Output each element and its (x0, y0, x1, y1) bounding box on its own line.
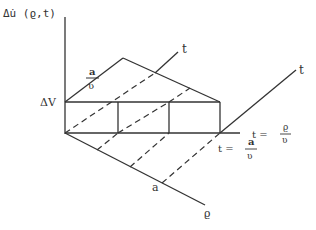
rho-tick-a: a (152, 181, 159, 194)
t-a-numerator: a (248, 136, 255, 147)
dashed-line-2c (169, 88, 190, 102)
dashed-line-3 (130, 133, 169, 167)
rho-axis-label: ϱ (204, 207, 210, 220)
y-axis-label: Δu̇ (ϱ,t) (3, 7, 56, 20)
inner-t-label: t (182, 42, 187, 56)
dashed-line-1 (65, 73, 155, 133)
delta-v-label: ΔV (40, 96, 57, 109)
wave-diagram: Δu̇ (ϱ,t) ΔV a ʋ t t a ϱ t = ϱ ʋ t = a ʋ (0, 0, 316, 230)
rise-fraction-denominator: ʋ (88, 80, 94, 91)
t-rho-denominator: ʋ (282, 135, 288, 145)
t-a-prefix: t = (218, 143, 234, 154)
dashed-line-2b (118, 102, 169, 133)
inner-t-axis (155, 52, 178, 73)
dashed-line-2a (97, 133, 118, 150)
t-a-denominator: ʋ (247, 151, 253, 161)
dashed-line-4 (162, 133, 220, 183)
t-rho-numerator: ϱ (283, 122, 288, 132)
rho-axis (65, 133, 205, 205)
outer-t-label: t (299, 63, 304, 77)
rise-fraction-numerator: a (89, 66, 96, 77)
roof-line (123, 58, 220, 102)
